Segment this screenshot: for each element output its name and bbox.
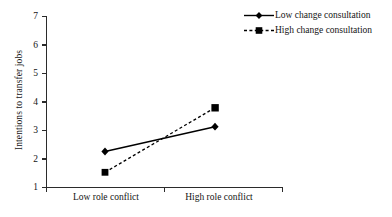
- y-axis-ticks: [42, 17, 46, 188]
- chart-figure: Intentions to transfer jobs 7 6 5 4 3 2 …: [0, 0, 392, 217]
- series-low-change-consultation: [101, 123, 218, 156]
- chart-legend: Low change consultation High change cons…: [243, 8, 392, 38]
- square-marker-icon: [256, 27, 263, 34]
- x-axis-ticks: [47, 188, 283, 193]
- data-point-low-change-low-role-conflict: [101, 148, 108, 156]
- series-line-high-change-consultation: [105, 108, 215, 173]
- data-point-high-change-low-role-conflict: [102, 169, 109, 176]
- legend-label-low-change-consultation: Low change consultation: [275, 10, 371, 21]
- data-point-low-change-high-role-conflict: [211, 123, 218, 131]
- legend-key-dashed-square: [243, 23, 275, 38]
- legend-key-solid-diamond: [243, 8, 275, 23]
- legend-item-low-change-consultation: Low change consultation: [243, 8, 392, 23]
- diamond-marker-icon: [256, 12, 263, 19]
- series-line-low-change-consultation: [105, 127, 215, 152]
- axis-lines: [46, 16, 283, 188]
- data-point-high-change-high-role-conflict: [211, 104, 218, 111]
- series-high-change-consultation: [102, 104, 219, 176]
- legend-label-high-change-consultation: High change consultation: [275, 25, 372, 36]
- legend-item-high-change-consultation: High change consultation: [243, 23, 392, 38]
